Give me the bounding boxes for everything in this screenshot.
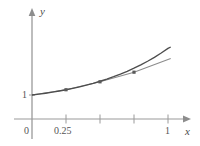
data-point-marker (132, 71, 135, 74)
x-axis-label: x (185, 126, 190, 137)
x-tick-label-1: 1 (165, 126, 170, 136)
data-point-marker (98, 80, 101, 83)
y-axis-label: y (40, 6, 45, 17)
y-tick-label-1: 1 (22, 90, 27, 100)
y-axis-arrow-icon (29, 8, 36, 16)
data-point-marker (64, 88, 67, 91)
x-axis-arrow-icon (183, 116, 191, 123)
smooth-curve (32, 47, 171, 95)
origin-label: 0 (24, 126, 29, 136)
figure-container: y x 0 1 0.25 1 (0, 0, 200, 146)
interpolating-polyline (32, 59, 171, 95)
x-tick-label-025: 0.25 (54, 126, 72, 136)
plot-canvas (0, 0, 200, 146)
